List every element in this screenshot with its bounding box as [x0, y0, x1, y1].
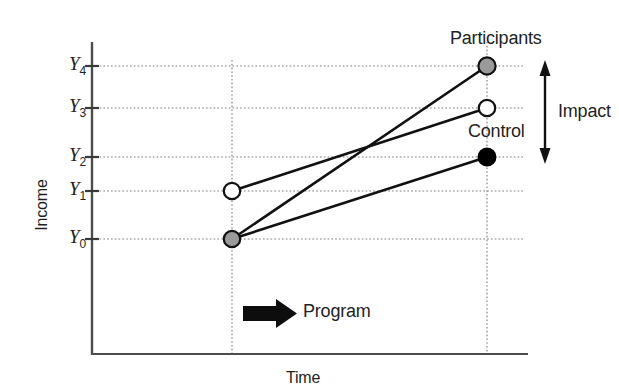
marker-control-baseline: [224, 183, 240, 199]
marker-counterfactual-followup: [479, 149, 496, 166]
y-axis-label: Income: [33, 162, 51, 248]
y-tick-label-y2: Y2: [69, 144, 86, 169]
y-tick-label-y0: Y0: [69, 226, 86, 251]
y-tick-label-y3: Y3: [69, 95, 86, 120]
impact-annotation-label: Impact: [558, 101, 611, 122]
x-axis-label: Time: [286, 369, 320, 387]
participants-series-label: Participants: [450, 28, 542, 49]
program-annotation-label: Program: [303, 301, 371, 322]
marker-participants-baseline: [224, 231, 240, 247]
y-tick-label-y4: Y4: [69, 53, 86, 78]
control-series-label: Control: [468, 121, 525, 142]
marker-control-followup: [479, 100, 495, 116]
impact-evaluation-chart: [0, 0, 619, 389]
marker-participants-followup: [478, 57, 495, 74]
y-tick-label-y1: Y1: [69, 178, 86, 203]
